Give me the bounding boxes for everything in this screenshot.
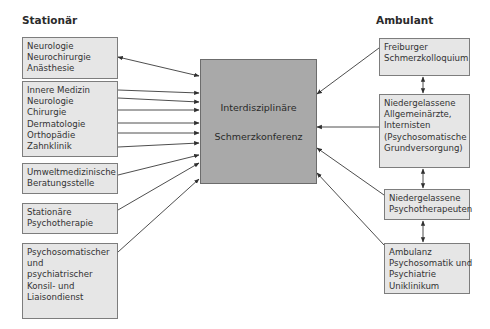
- box-line: Zahnklinik: [27, 141, 113, 152]
- box-line: Schmerzkolloquium: [384, 53, 465, 64]
- box-line: und: [27, 258, 113, 269]
- box-line: Orthopädie: [27, 130, 113, 141]
- box-line: Niedergelassene: [389, 193, 465, 204]
- box-line: Beratungsstelle: [27, 178, 113, 189]
- box-umweltmedizin: Umweltmedizinische Beratungsstelle: [22, 163, 118, 194]
- center-title-line: Schmerzkonferenz: [214, 131, 302, 142]
- box-neurologie-neurochirurgie-anaesthesie: Neurologie Neurochirurgie Anästhesie: [22, 37, 118, 79]
- box-line: Freiburger: [384, 42, 465, 53]
- box-line: Liaisondienst: [27, 292, 113, 303]
- box-line: Psychotherapie: [27, 218, 113, 229]
- box-line: Dermatologie: [27, 119, 113, 130]
- box-ambulanz-uniklinikum: Ambulanz Psychosomatik und Psychiatrie U…: [384, 243, 470, 294]
- box-line: Allgemeinärzte,: [384, 109, 465, 120]
- box-line: Psychosomatik und: [389, 258, 465, 269]
- box-line: Uniklinikum: [389, 281, 465, 292]
- center-box-schmerzkonferenz: Interdisziplinäre Schmerzkonferenz: [200, 59, 317, 184]
- box-line: Neurologie: [27, 96, 113, 107]
- box-line: Konsil- und: [27, 281, 113, 292]
- box-allgemeinaerzte: Niedergelassene Allgemeinärzte, Internis…: [379, 94, 470, 168]
- box-line: Umweltmedizinische: [27, 167, 113, 178]
- box-freiburger-schmerzkolloquium: Freiburger Schmerzkolloquium: [379, 38, 470, 76]
- box-line: Psychosomatischer: [27, 247, 113, 258]
- box-stationaere-psychotherapie: Stationäre Psychotherapie: [22, 203, 118, 234]
- box-line: Niedergelassene: [384, 98, 465, 109]
- box-line: Ambulanz: [389, 247, 465, 258]
- box-line: Anästhesie: [27, 63, 113, 74]
- box-line: Neurochirurgie: [27, 52, 113, 63]
- center-title-line: Interdisziplinäre: [220, 102, 296, 113]
- box-line: Chirurgie: [27, 107, 113, 118]
- box-line: Neurologie: [27, 41, 113, 52]
- box-line: Internisten: [384, 120, 465, 131]
- box-line: psychiatrischer: [27, 269, 113, 280]
- box-line: Stationäre: [27, 207, 113, 218]
- box-fachkliniken: Innere Medizin Neurologie Chirurgie Derm…: [22, 81, 118, 157]
- box-line: Psychiatrie: [389, 269, 465, 280]
- box-line: (Psychosomatische: [384, 132, 465, 143]
- box-psychotherapeuten: Niedergelassene Psychotherapeuten: [384, 189, 470, 220]
- box-konsil-liaisondienst: Psychosomatischer und psychiatrischer Ko…: [22, 243, 118, 319]
- box-line: Innere Medizin: [27, 85, 113, 96]
- box-line: Psychotherapeuten: [389, 204, 465, 215]
- box-line: Grundversorgung): [384, 143, 465, 154]
